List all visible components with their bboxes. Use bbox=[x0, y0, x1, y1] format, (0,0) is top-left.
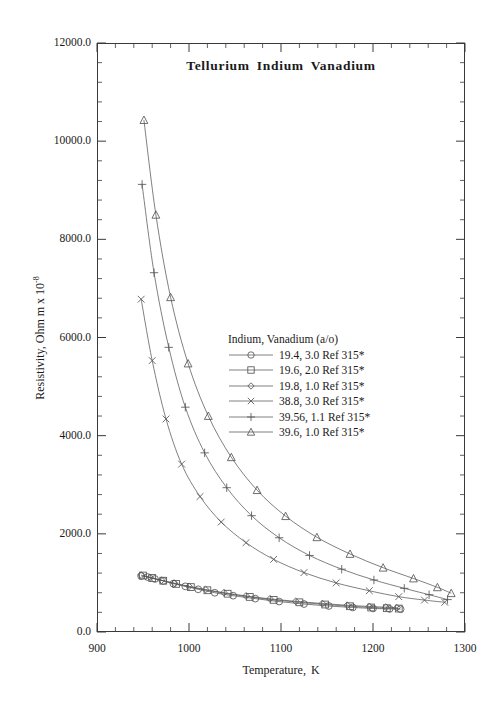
x-tick-label: 1100 bbox=[251, 643, 311, 655]
legend-marker-circle-icon bbox=[228, 348, 274, 362]
legend-marker-plus-icon bbox=[228, 410, 274, 424]
legend-label: 19.8, 1.0 Ref 315* bbox=[279, 379, 365, 393]
y-axis-title: Resistivity, Ohm m x 10-8 bbox=[32, 178, 48, 498]
legend-marker-square-icon bbox=[228, 363, 274, 377]
x-tick-label: 900 bbox=[67, 643, 127, 655]
legend-item: 39.6, 1.0 Ref 315* bbox=[228, 425, 370, 441]
legend-item: 19.4, 3.0 Ref 315* bbox=[228, 347, 370, 363]
legend-item: 38.8, 3.0 Ref 315* bbox=[228, 394, 370, 410]
legend-label: 39.56, 1.1 Ref 315* bbox=[279, 410, 370, 424]
chart-page: Tellurium Indium Vanadium 0.02000.04000.… bbox=[0, 0, 494, 703]
legend-title: Indium, Vanadium (a/o) bbox=[228, 333, 370, 345]
legend-marker-diamond-icon bbox=[228, 379, 274, 393]
legend-item: 19.8, 1.0 Ref 315* bbox=[228, 378, 370, 394]
legend: Indium, Vanadium (a/o) 19.4, 3.0 Ref 315… bbox=[228, 333, 370, 440]
x-tick-label: 1200 bbox=[343, 643, 403, 655]
legend-label: 38.8, 3.0 Ref 315* bbox=[279, 394, 365, 408]
legend-label: 19.4, 3.0 Ref 315* bbox=[279, 348, 365, 362]
legend-marker-cross-icon bbox=[228, 394, 274, 408]
legend-label: 19.6, 2.0 Ref 315* bbox=[279, 363, 365, 377]
y-axis-title-text: Resistivity, Ohm m x 10 bbox=[33, 283, 47, 400]
legend-item: 39.56, 1.1 Ref 315* bbox=[228, 409, 370, 425]
legend-marker-triangle-icon bbox=[228, 425, 274, 439]
legend-item: 19.6, 2.0 Ref 315* bbox=[228, 363, 370, 379]
x-tick-label: 1300 bbox=[435, 643, 494, 655]
x-axis-title: Temperature, K bbox=[97, 663, 465, 678]
x-tick-label: 1000 bbox=[159, 643, 219, 655]
legend-label: 39.6, 1.0 Ref 315* bbox=[279, 425, 365, 439]
y-axis-title-exponent: -8 bbox=[32, 276, 41, 283]
legend-entries: 19.4, 3.0 Ref 315*19.6, 2.0 Ref 315*19.8… bbox=[228, 347, 370, 440]
